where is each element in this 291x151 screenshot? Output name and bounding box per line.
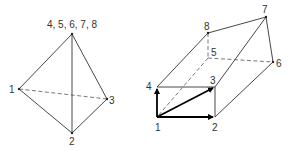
- label-v2: 2: [69, 136, 75, 147]
- label-v8: 8: [204, 21, 210, 32]
- edge-8-7: [208, 17, 266, 33]
- vertex-dot: [207, 32, 209, 34]
- edge-2-3: [72, 99, 107, 133]
- hidden-edge-5-6: [208, 58, 273, 62]
- label-v4: 4: [146, 81, 152, 92]
- label-v2: 2: [212, 122, 218, 133]
- vertex-dot: [265, 16, 267, 18]
- label-v1: 1: [155, 122, 161, 133]
- vertex-dot: [71, 33, 73, 35]
- label-v1: 1: [9, 84, 15, 95]
- hidden-edge-5-1: [157, 58, 208, 117]
- vertex-dot: [71, 132, 73, 134]
- vertex-dot: [18, 88, 20, 90]
- vector-1-3: [157, 88, 213, 117]
- label-v7: 7: [262, 4, 268, 15]
- edge-7-6: [266, 17, 273, 62]
- edge-top-1: [19, 34, 72, 89]
- vertex-dot: [272, 61, 274, 63]
- label-top-vertices: 4, 5, 6, 7, 8: [47, 19, 97, 30]
- label-v6: 6: [276, 58, 282, 69]
- diagram-canvas: 4, 5, 6, 7, 8 1 3 2 1 2 3 4 5 6 7 8: [0, 0, 291, 151]
- right-hexahedron: 1 2 3 4 5 6 7 8: [146, 4, 282, 133]
- left-tetrahedron: 4, 5, 6, 7, 8 1 3 2: [9, 19, 115, 147]
- label-v5: 5: [211, 47, 217, 58]
- edge-top-3: [72, 34, 107, 99]
- hidden-edge-1-3: [19, 89, 107, 99]
- edge-6-2: [215, 62, 273, 117]
- vertex-dot: [106, 98, 108, 100]
- label-v3: 3: [210, 75, 216, 86]
- edge-1-2: [19, 89, 72, 133]
- edge-4-8: [157, 33, 208, 87]
- label-v3: 3: [109, 95, 115, 106]
